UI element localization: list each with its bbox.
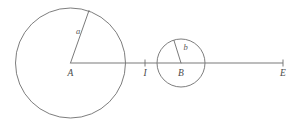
point-label-e: E	[279, 68, 286, 78]
point-label-b: B	[178, 68, 184, 78]
radius-label-a: a	[76, 26, 80, 36]
figure-canvas: a b A I B E	[0, 0, 298, 123]
point-label-i: I	[142, 68, 147, 78]
geometry-figure: a b A I B E	[0, 0, 298, 123]
radius-segment-a	[71, 11, 90, 64]
point-label-a: A	[67, 68, 74, 78]
radius-segment-b	[174, 41, 181, 64]
radius-label-b: b	[183, 42, 187, 52]
